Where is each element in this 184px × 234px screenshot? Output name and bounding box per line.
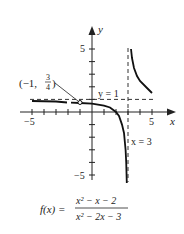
svg-text:): ) xyxy=(52,77,56,90)
svg-text:f(x) =: f(x) = xyxy=(40,203,65,216)
y-tick-label-5: 5 xyxy=(80,43,85,54)
x-axis-label: x xyxy=(169,115,175,127)
hole-leader-line xyxy=(55,83,78,101)
hole-point xyxy=(78,101,82,105)
y-tick-label-neg5: −5 xyxy=(74,170,85,181)
vertical-asymptote-label: x = 3 xyxy=(131,136,152,147)
function-formula: f(x) = x² − x − 2 x² − 2x − 3 xyxy=(40,195,128,222)
svg-text:4: 4 xyxy=(46,83,50,92)
hole-label: (−1, 3 4 ) xyxy=(19,73,56,92)
svg-text:(−1,: (−1, xyxy=(19,77,37,90)
horizontal-asymptote-label: y = 1 xyxy=(98,88,119,99)
svg-text:3: 3 xyxy=(46,73,50,82)
y-axis-arrow-icon xyxy=(89,26,96,35)
svg-text:x² − 2x − 3: x² − 2x − 3 xyxy=(75,211,121,222)
x-axis xyxy=(20,109,176,116)
x-tick-label-neg5: −5 xyxy=(24,116,35,127)
x-tick-label-5: 5 xyxy=(149,116,154,127)
svg-text:x² − x − 2: x² − x − 2 xyxy=(75,195,116,206)
curve-right-branch xyxy=(131,49,152,93)
y-axis-label: y xyxy=(97,23,103,35)
graph: y x 5 −5 −5 5 y = 1 x = 3 (−1, 3 4 ) f(x… xyxy=(0,0,184,234)
